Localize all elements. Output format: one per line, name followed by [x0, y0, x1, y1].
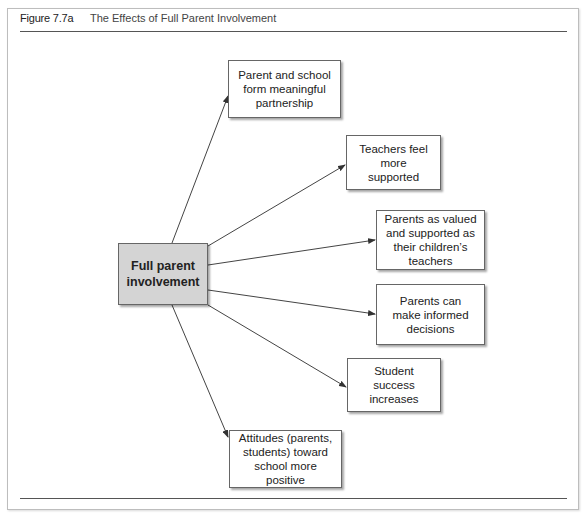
effect-label: Parent and school form meaningful partne…: [233, 68, 336, 110]
effect-label: Teachers feel more supported: [357, 142, 430, 184]
effect-node-partnership: Parent and school form meaningful partne…: [228, 60, 341, 118]
effect-node-decisions: Parents can make informed decisions: [376, 284, 485, 345]
effect-node-valued: Parents as valued and supported as their…: [376, 210, 485, 270]
arrow-to-decisions: [208, 290, 375, 314]
effect-label: Parents as valued and supported as their…: [381, 212, 480, 268]
center-node: Full parent involvement: [118, 243, 208, 305]
arrow-to-teachers: [208, 165, 345, 246]
arrow-to-attitudes: [172, 305, 228, 437]
arrow-to-valued: [208, 240, 375, 265]
center-node-label: Full parent involvement: [123, 258, 203, 290]
arrow-to-partnership: [172, 96, 228, 243]
effect-node-success: Student success increases: [347, 358, 441, 412]
effect-label: Parents can make informed decisions: [391, 294, 470, 336]
effect-label: Student success increases: [369, 364, 418, 406]
effect-node-teachers: Teachers feel more supported: [346, 135, 441, 190]
effect-node-attitudes: Attitudes (parents, students) toward sch…: [229, 430, 342, 488]
arrow-to-success: [208, 305, 346, 387]
effect-label: Attitudes (parents, students) toward sch…: [234, 431, 337, 487]
